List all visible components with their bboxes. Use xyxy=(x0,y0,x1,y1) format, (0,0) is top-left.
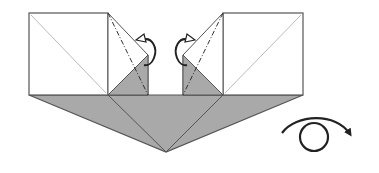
right-square xyxy=(223,13,303,95)
right-flap xyxy=(176,13,223,95)
turn-over-arrow-icon xyxy=(282,118,350,151)
bottom-triangle xyxy=(29,95,303,152)
left-flap xyxy=(108,13,155,95)
origami-diagram xyxy=(0,0,379,173)
left-square xyxy=(29,13,108,95)
